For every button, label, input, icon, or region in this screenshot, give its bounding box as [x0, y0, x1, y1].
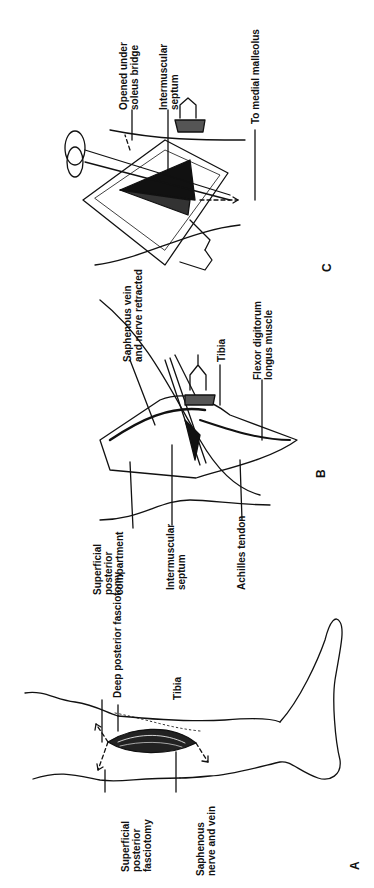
panel-label-a: A	[348, 861, 362, 870]
label-flexor-digitorum-longus: Flexor digitorum longus muscle	[252, 301, 274, 380]
label-superficial-posterior-fasciotomy: Superficial posterior fasciotomy	[120, 819, 153, 872]
label-achilles-tendon: Achilles tendon	[236, 516, 247, 590]
label-tibia-a: Tibia	[172, 677, 183, 700]
label-superficial-posterior-compartment: Superficial posterior compartment	[92, 532, 125, 595]
label-opened-under-soleus-bridge: Opened under soleus bridge	[118, 42, 140, 110]
label-intermuscular-septum-c: Intermuscular septum	[158, 44, 180, 110]
panel-label-b: B	[314, 469, 328, 478]
label-saphenous-vein-nerve-retracted: Saphenous vein and nerve retracted	[122, 269, 144, 362]
panel-a-leg-drawing	[25, 619, 342, 792]
label-intermuscular-septum-b: Intermuscular septum	[165, 524, 187, 590]
label-to-medial-malleolus: To medial malleolus	[250, 29, 261, 124]
fasciotomy-illustration	[0, 0, 374, 888]
label-saphenous-nerve-and-vein: Saphenous nerve and vein	[195, 806, 217, 876]
panel-c-drawing	[65, 98, 255, 270]
panel-label-c: C	[320, 263, 334, 272]
label-tibia-b: Tibia	[216, 339, 227, 362]
